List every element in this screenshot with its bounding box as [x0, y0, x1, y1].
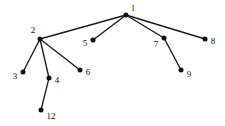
graph-canvas: 12345678912 — [0, 0, 225, 126]
graph-node-9[interactable] — [179, 68, 184, 73]
graph-node-7[interactable] — [162, 36, 167, 41]
graph-node-label-12: 12 — [47, 111, 56, 121]
graph-node-1[interactable] — [124, 13, 129, 18]
graph-node-label-4: 4 — [55, 75, 60, 85]
graph-node-3[interactable] — [21, 70, 26, 75]
graph-edge-1-2 — [40, 15, 126, 39]
graph-nodes — [21, 13, 208, 113]
graph-node-label-6: 6 — [86, 67, 91, 77]
graph-node-5[interactable] — [91, 38, 96, 43]
graph-edge-2-3 — [23, 39, 40, 72]
graph-edge-1-5 — [93, 15, 126, 40]
graph-node-6[interactable] — [78, 68, 83, 73]
graph-node-8[interactable] — [203, 37, 208, 42]
graph-node-label-9: 9 — [187, 69, 192, 79]
graph-node-label-5: 5 — [83, 38, 88, 48]
graph-node-2[interactable] — [38, 37, 43, 42]
graph-node-12[interactable] — [39, 108, 44, 113]
graph-node-label-7: 7 — [154, 39, 159, 49]
graph-node-label-8: 8 — [211, 36, 216, 46]
graph-edge-1-8 — [126, 15, 205, 39]
graph-node-label-3: 3 — [13, 71, 18, 81]
graph-node-4[interactable] — [47, 76, 52, 81]
graph-edge-1-7 — [126, 15, 164, 38]
graph-node-label-1: 1 — [131, 3, 136, 13]
graph-edges — [23, 15, 205, 110]
graph-node-label-2: 2 — [31, 25, 36, 35]
graph-edge-7-9 — [164, 38, 181, 70]
graph-figure: 12345678912 — [0, 0, 225, 126]
graph-edge-4-12 — [41, 78, 49, 110]
